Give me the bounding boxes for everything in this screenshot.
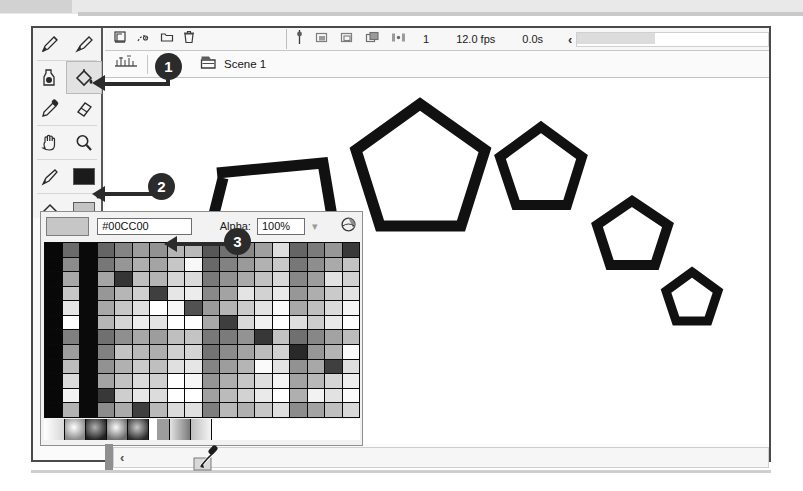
color-swatch[interactable] — [98, 243, 115, 257]
gradient-swatch[interactable] — [149, 419, 170, 440]
color-swatch[interactable] — [80, 316, 97, 330]
color-swatch[interactable] — [80, 272, 97, 286]
color-swatch[interactable] — [273, 272, 290, 286]
stroke-color-tool[interactable] — [33, 161, 67, 192]
color-swatch[interactable] — [220, 403, 237, 417]
color-swatch[interactable] — [80, 243, 97, 257]
color-swatch[interactable] — [63, 389, 80, 403]
color-swatch[interactable] — [150, 272, 167, 286]
color-swatch[interactable] — [133, 330, 150, 344]
color-swatch[interactable] — [185, 360, 202, 374]
color-swatch[interactable] — [325, 360, 342, 374]
color-swatch[interactable] — [168, 330, 185, 344]
color-swatch[interactable] — [185, 287, 202, 301]
color-swatch[interactable] — [63, 272, 80, 286]
color-swatch[interactable] — [308, 374, 325, 388]
color-swatch[interactable] — [168, 345, 185, 359]
gradient-swatch[interactable] — [86, 419, 107, 440]
timeline-scroll-left-icon[interactable]: ‹ — [568, 32, 572, 47]
onion-skin-outlines-icon[interactable] — [340, 30, 354, 48]
color-swatch[interactable] — [80, 389, 97, 403]
color-swatch[interactable] — [168, 403, 185, 417]
color-swatch[interactable] — [343, 287, 360, 301]
color-swatch[interactable] — [98, 316, 115, 330]
eyedropper-tool[interactable] — [33, 93, 67, 124]
color-swatch[interactable] — [63, 330, 80, 344]
color-swatch[interactable] — [308, 345, 325, 359]
color-swatch[interactable] — [115, 345, 132, 359]
color-swatch[interactable] — [325, 272, 342, 286]
hand-tool[interactable] — [33, 127, 67, 158]
color-swatch[interactable] — [308, 243, 325, 257]
timeline-scrollbar-thumb[interactable] — [577, 33, 655, 44]
color-swatch[interactable] — [238, 287, 255, 301]
color-swatch[interactable] — [80, 258, 97, 272]
color-swatch[interactable] — [150, 258, 167, 272]
color-swatch[interactable] — [203, 258, 220, 272]
color-swatch[interactable] — [220, 345, 237, 359]
color-swatch[interactable] — [308, 360, 325, 374]
color-swatch[interactable] — [308, 389, 325, 403]
color-swatch[interactable] — [80, 403, 97, 417]
color-swatch[interactable] — [290, 389, 307, 403]
color-swatch[interactable] — [150, 330, 167, 344]
delete-layer-icon[interactable] — [183, 30, 195, 48]
color-swatch[interactable] — [80, 330, 97, 344]
color-swatch[interactable] — [45, 301, 62, 315]
color-swatch[interactable] — [115, 301, 132, 315]
brush-tool[interactable] — [67, 28, 101, 59]
color-swatch[interactable] — [273, 403, 290, 417]
color-swatch[interactable] — [255, 330, 272, 344]
color-swatch[interactable] — [343, 243, 360, 257]
color-swatch[interactable] — [150, 301, 167, 315]
color-swatch[interactable] — [150, 316, 167, 330]
color-swatch[interactable] — [325, 258, 342, 272]
scene-icon[interactable] — [200, 55, 217, 74]
color-swatch[interactable] — [133, 243, 150, 257]
color-swatch[interactable] — [255, 345, 272, 359]
color-swatch[interactable] — [220, 316, 237, 330]
color-swatch[interactable] — [115, 243, 132, 257]
color-swatch[interactable] — [185, 374, 202, 388]
color-swatch[interactable] — [63, 374, 80, 388]
color-swatch[interactable] — [343, 272, 360, 286]
color-swatch[interactable] — [203, 374, 220, 388]
color-swatch[interactable] — [115, 360, 132, 374]
color-swatch[interactable] — [238, 403, 255, 417]
color-swatch[interactable] — [133, 374, 150, 388]
color-swatch[interactable] — [255, 301, 272, 315]
color-swatch[interactable] — [185, 403, 202, 417]
color-swatch[interactable] — [220, 389, 237, 403]
gradient-swatch[interactable] — [128, 419, 149, 440]
color-swatch[interactable] — [273, 258, 290, 272]
color-swatch[interactable] — [273, 301, 290, 315]
color-swatch[interactable] — [115, 316, 132, 330]
color-swatch[interactable] — [203, 360, 220, 374]
color-swatch[interactable] — [290, 287, 307, 301]
color-swatch[interactable] — [290, 403, 307, 417]
hex-value-input[interactable]: #00CC00 — [97, 218, 192, 235]
color-swatch[interactable] — [203, 345, 220, 359]
color-swatch[interactable] — [343, 258, 360, 272]
add-motion-guide-icon[interactable] — [136, 30, 151, 48]
new-folder-icon[interactable] — [160, 30, 174, 48]
color-swatch[interactable] — [63, 360, 80, 374]
color-swatch[interactable] — [325, 374, 342, 388]
color-swatch[interactable] — [45, 389, 62, 403]
color-swatch[interactable] — [63, 316, 80, 330]
color-swatch[interactable] — [45, 403, 62, 417]
color-swatch[interactable] — [98, 345, 115, 359]
color-swatch[interactable] — [325, 287, 342, 301]
color-swatch[interactable] — [238, 374, 255, 388]
color-swatch[interactable] — [185, 316, 202, 330]
color-swatch[interactable] — [238, 272, 255, 286]
color-swatch[interactable] — [203, 287, 220, 301]
color-swatch[interactable] — [238, 258, 255, 272]
color-swatch[interactable] — [343, 330, 360, 344]
color-swatch[interactable] — [115, 287, 132, 301]
color-swatch[interactable] — [133, 403, 150, 417]
color-swatch[interactable] — [308, 330, 325, 344]
gradient-swatch[interactable] — [170, 419, 191, 440]
color-swatch[interactable] — [45, 243, 62, 257]
color-swatch[interactable] — [343, 360, 360, 374]
